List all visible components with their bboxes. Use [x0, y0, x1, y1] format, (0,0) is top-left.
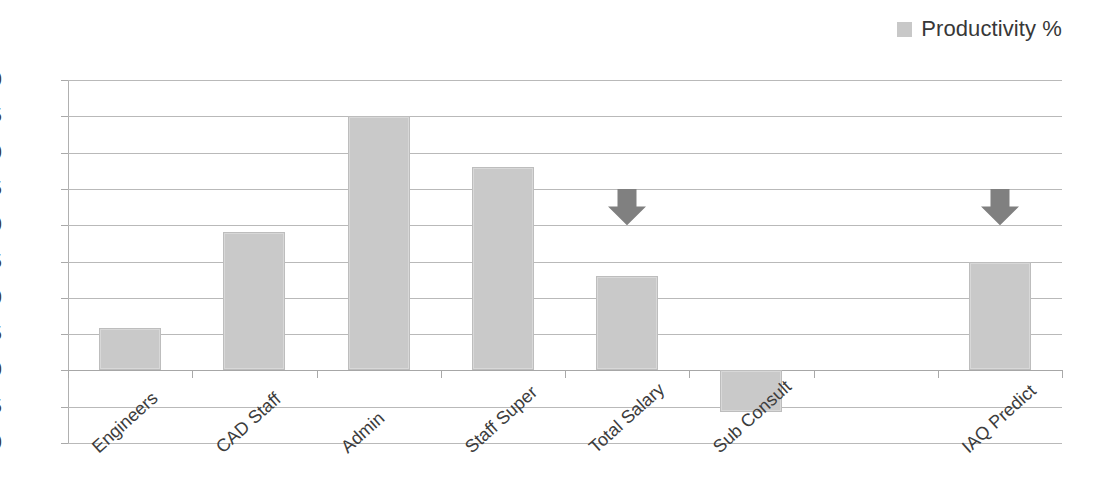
- y-tick-0: [61, 370, 68, 371]
- x-tick-3: [441, 370, 442, 378]
- bar-engineers: [99, 328, 161, 370]
- x-tick-8: [1062, 370, 1063, 378]
- y-axis-label--10: -10: [0, 430, 2, 454]
- plot-area: 4035302520151050-5-10: [68, 80, 1062, 443]
- x-tick-5: [689, 370, 690, 378]
- chart-container: Productivity % 4035302520151050-5-10 Eng…: [0, 0, 1114, 486]
- x-tick-0: [68, 370, 69, 378]
- y-tick--10: [61, 443, 68, 444]
- y-axis-label-30: 30: [0, 140, 2, 164]
- bar-total-salary: [596, 276, 658, 370]
- y-axis-label-25: 25: [0, 176, 2, 200]
- y-axis-label-0: 0: [0, 357, 2, 381]
- bars-group: [68, 80, 1062, 443]
- bar-cad-staff: [223, 232, 285, 370]
- y-tick-20: [61, 225, 68, 226]
- y-tick-25: [61, 189, 68, 190]
- y-axis-label-20: 20: [0, 212, 2, 236]
- bar-admin: [348, 116, 410, 370]
- legend-swatch-productivity: [897, 22, 912, 37]
- x-tick-1: [192, 370, 193, 378]
- y-tick-5: [61, 334, 68, 335]
- x-tick-2: [317, 370, 318, 378]
- x-tick-7: [938, 370, 939, 378]
- y-axis-label--5: -5: [0, 394, 2, 418]
- y-tick-10: [61, 298, 68, 299]
- x-tick-4: [565, 370, 566, 378]
- bar-staff-super: [472, 167, 534, 370]
- y-axis-label-40: 40: [0, 67, 2, 91]
- y-tick-15: [61, 262, 68, 263]
- y-axis-label-10: 10: [0, 285, 2, 309]
- chart-legend: Productivity %: [897, 16, 1062, 42]
- y-axis-label-35: 35: [0, 103, 2, 127]
- legend-label-productivity: Productivity %: [921, 16, 1062, 42]
- y-axis-label-5: 5: [0, 321, 2, 345]
- x-tick-6: [814, 370, 815, 378]
- y-tick-30: [61, 153, 68, 154]
- y-axis-label-15: 15: [0, 249, 2, 273]
- y-tick-40: [61, 80, 68, 81]
- y-tick-35: [61, 116, 68, 117]
- bar-iaq-predict: [969, 262, 1031, 371]
- y-tick--5: [61, 407, 68, 408]
